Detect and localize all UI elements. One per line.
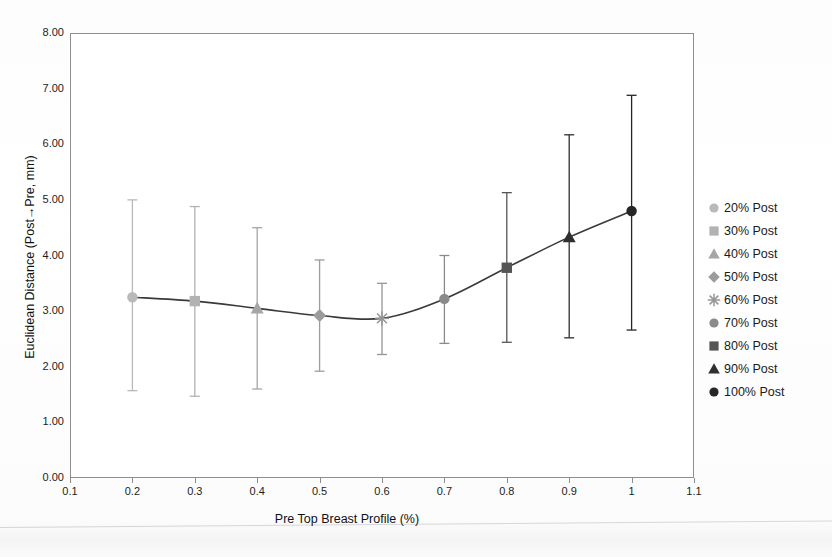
x-tick-mark <box>70 478 71 483</box>
euclidean-distance-chart: 0.001.002.003.004.005.006.007.008.00 0.1… <box>0 0 832 557</box>
legend-item-label: 60% Post <box>724 293 778 307</box>
marker-triangle <box>708 248 720 258</box>
legend-item[interactable]: 40% Post <box>706 242 832 265</box>
x-tick-mark <box>320 478 321 483</box>
legend-item[interactable]: 60% Post <box>706 288 832 311</box>
x-tick-label: 0.6 <box>362 486 402 497</box>
chart-legend: 20% Post30% Post40% Post50% Post60% Post… <box>706 196 832 403</box>
x-tick-mark <box>132 478 133 483</box>
x-tick-mark <box>257 478 258 483</box>
marker-star <box>708 293 720 305</box>
legend-item[interactable]: 30% Post <box>706 219 832 242</box>
legend-triangle-icon <box>706 246 722 262</box>
chart-page: 0.001.002.003.004.005.006.007.008.00 0.1… <box>0 0 832 557</box>
x-tick-label: 0.8 <box>487 486 527 497</box>
legend-circle-icon <box>706 200 722 216</box>
marker-circle <box>709 387 718 396</box>
legend-star-icon <box>706 292 722 308</box>
legend-item[interactable]: 50% Post <box>706 265 832 288</box>
legend-item[interactable]: 70% Post <box>706 311 832 334</box>
x-tick-label: 0.3 <box>175 486 215 497</box>
x-tick-label: 0.4 <box>237 486 277 497</box>
x-tick-label: 1 <box>612 486 652 497</box>
x-tick-mark <box>444 478 445 483</box>
x-tick-mark <box>382 478 383 483</box>
marker-diamond <box>708 271 720 283</box>
x-tick-label: 0.7 <box>424 486 464 497</box>
legend-circle-icon <box>706 315 722 331</box>
legend-item-label: 100% Post <box>724 385 784 399</box>
x-tick-mark <box>632 478 633 483</box>
x-axis-title: Pre Top Breast Profile (%) <box>0 512 694 526</box>
legend-square-icon <box>706 223 722 239</box>
marker-circle <box>709 318 718 327</box>
legend-circle-icon <box>706 384 722 400</box>
legend-item[interactable]: 20% Post <box>706 196 832 219</box>
legend-diamond-icon <box>706 269 722 285</box>
legend-item-label: 30% Post <box>724 224 778 238</box>
x-tick-label: 0.5 <box>300 486 340 497</box>
legend-item-label: 20% Post <box>724 201 778 215</box>
x-tick-mark <box>569 478 570 483</box>
y-tick-label: 8.00 <box>24 27 64 38</box>
x-tick-label: 1.1 <box>674 486 714 497</box>
legend-item-label: 80% Post <box>724 339 778 353</box>
x-tick-mark <box>195 478 196 483</box>
legend-item-label: 70% Post <box>724 316 778 330</box>
legend-square-icon <box>706 338 722 354</box>
marker-square <box>709 226 718 235</box>
x-tick-label: 0.2 <box>112 486 152 497</box>
marker-circle <box>709 203 718 212</box>
y-tick-label: 0.00 <box>24 472 64 483</box>
legend-item[interactable]: 90% Post <box>706 357 832 380</box>
plot-area <box>70 33 694 478</box>
x-axis-tick-labels: 0.10.20.30.40.50.60.70.80.911.1 <box>0 486 832 502</box>
legend-item-label: 40% Post <box>724 247 778 261</box>
marker-square <box>709 341 718 350</box>
x-tick-label: 0.9 <box>549 486 589 497</box>
legend-item[interactable]: 80% Post <box>706 334 832 357</box>
marker-triangle <box>708 363 720 373</box>
x-tick-label: 0.1 <box>50 486 90 497</box>
legend-item[interactable]: 100% Post <box>706 380 832 403</box>
legend-item-label: 90% Post <box>724 362 778 376</box>
x-tick-mark <box>507 478 508 483</box>
legend-triangle-icon <box>706 361 722 377</box>
x-tick-mark <box>694 478 695 483</box>
y-axis-title: Euclidean Distance (Post→Pre, mm) <box>23 47 37 467</box>
legend-item-label: 50% Post <box>724 270 778 284</box>
